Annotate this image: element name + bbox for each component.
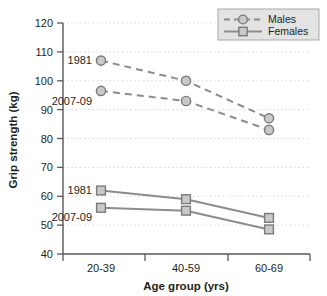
data-point-males-2007-09-20-39 [96,86,105,95]
data-point-females-1981-20-39 [97,186,106,195]
y-tick-label-110: 110 [35,46,53,58]
data-point-females-2007-09-40-59 [182,206,191,215]
legend-marker-circle-icon [239,15,248,24]
data-point-males-2007-09-40-59 [181,96,190,105]
y-tick-label-60: 60 [41,190,53,202]
data-point-males-1981-60-69 [264,114,273,123]
x-tick-label-40-59: 40-59 [172,262,200,274]
annotation-males-1981: 1981 [68,54,92,66]
data-point-females-2007-09-20-39 [97,203,106,212]
annotation-females-2007-09: 2007-09 [52,211,92,223]
y-tick-label-100: 100 [35,75,53,87]
chart-canvas: 120 110 100 90 80 70 60 50 40 20-39 40-5… [0,0,327,296]
y-tick-label-40: 40 [41,248,53,260]
data-point-females-1981-60-69 [265,214,274,223]
grip-strength-chart: 120 110 100 90 80 70 60 50 40 20-39 40-5… [0,0,327,296]
data-point-females-1981-40-59 [182,195,191,204]
data-point-males-1981-40-59 [181,76,190,85]
data-point-females-2007-09-60-69 [265,225,274,234]
x-tick-label-60-69: 60-69 [255,262,283,274]
data-point-males-1981-20-39 [96,56,105,65]
y-tick-label-70: 70 [41,161,53,173]
legend-marker-square-icon [239,27,247,35]
annotation-females-1981: 1981 [68,184,92,196]
legend[interactable]: Males Females [218,9,319,40]
legend-label-females: Females [268,25,308,37]
legend-label-males: Males [268,13,296,25]
y-axis-title: Grip strength (kg) [7,91,19,188]
annotation-males-2007-09: 2007-09 [52,95,92,107]
x-tick-label-20-39: 20-39 [87,262,115,274]
data-point-males-2007-09-60-69 [264,125,273,134]
x-axis-title: Age group (yrs) [143,280,229,292]
y-tick-label-80: 80 [41,133,53,145]
y-tick-label-120: 120 [35,17,53,29]
